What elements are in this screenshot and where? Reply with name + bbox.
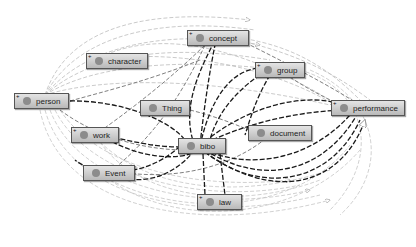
class-circle-icon (340, 104, 348, 112)
class-circle-icon (23, 97, 31, 105)
node-law[interactable]: + law (197, 194, 242, 210)
node-label: Thing (162, 104, 182, 113)
class-circle-icon (95, 57, 103, 65)
node-label: performance (353, 104, 398, 113)
expand-icon[interactable]: + (257, 62, 261, 68)
ontology-graph-canvas[interactable]: + concept + character + group + person +… (0, 0, 416, 247)
node-label: law (219, 198, 231, 207)
class-circle-icon (196, 34, 204, 42)
node-concept[interactable]: + concept (187, 30, 249, 46)
expand-icon[interactable]: + (199, 194, 203, 200)
expand-icon[interactable]: + (88, 53, 92, 59)
node-label: person (36, 97, 60, 106)
class-circle-icon (257, 129, 265, 137)
node-group[interactable]: + group (255, 62, 305, 78)
expand-icon[interactable]: + (16, 93, 20, 99)
node-label: document (270, 129, 305, 138)
node-character[interactable]: + character (86, 53, 148, 69)
node-bibo[interactable]: bibo (178, 138, 226, 154)
expand-icon[interactable]: + (333, 100, 337, 106)
node-event[interactable]: Event (83, 165, 135, 181)
class-circle-icon (206, 198, 214, 206)
node-performance[interactable]: + performance (331, 100, 405, 116)
class-circle-icon (92, 169, 100, 177)
expand-icon[interactable]: + (189, 30, 193, 36)
class-circle-icon (264, 66, 272, 74)
node-label: concept (209, 34, 237, 43)
node-label: Event (105, 169, 125, 178)
expand-icon[interactable]: + (73, 127, 77, 133)
node-work[interactable]: + work (71, 127, 119, 143)
node-label: group (277, 66, 297, 75)
node-thing[interactable]: Thing (140, 100, 190, 116)
node-label: bibo (200, 142, 215, 151)
node-label: character (108, 57, 141, 66)
node-person[interactable]: + person (14, 93, 69, 109)
class-circle-icon (187, 142, 195, 150)
node-document[interactable]: document (248, 125, 312, 141)
class-circle-icon (80, 131, 88, 139)
node-label: work (93, 131, 110, 140)
class-circle-icon (149, 104, 157, 112)
